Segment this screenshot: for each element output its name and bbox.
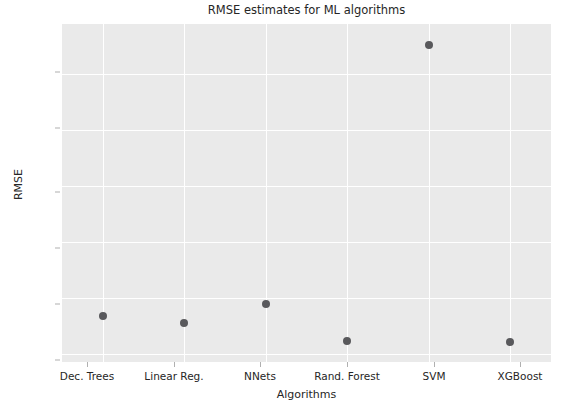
data-point [262, 300, 270, 308]
grid-line-horizontal-5 [62, 74, 551, 75]
x-tick-label-1: Linear Reg. [144, 370, 203, 382]
x-tick-mark-2 [260, 362, 261, 367]
y-tick-mark-3 [55, 192, 60, 193]
data-point [180, 319, 188, 327]
grid-line-vertical-2 [266, 24, 267, 362]
x-tick-mark-1 [174, 362, 175, 367]
x-axis-label: Algorithms [62, 388, 551, 401]
grid-line-horizontal-4 [62, 130, 551, 131]
grid-line-horizontal-1 [62, 298, 551, 299]
chart-title: RMSE estimates for ML algorithms [62, 3, 551, 17]
x-tick-mark-0 [87, 362, 88, 367]
x-tick-label-2: NNets [244, 370, 276, 382]
y-tick-mark-0 [55, 360, 60, 361]
grid-line-vertical-4 [429, 24, 430, 362]
chart-figure: RMSE estimates for ML algorithms 0.02 0.… [0, 0, 561, 420]
plot-area [62, 24, 551, 362]
x-tick-label-3: Rand. Forest [314, 370, 380, 382]
data-point [99, 312, 107, 320]
grid-line-vertical-3 [347, 24, 348, 362]
y-tick-mark-2 [55, 248, 60, 249]
x-tick-label-4: SVM [423, 370, 446, 382]
y-tick-mark-5 [55, 72, 60, 73]
x-tick-mark-5 [520, 362, 521, 367]
x-tick-label-0: Dec. Trees [60, 370, 114, 382]
y-tick-mark-4 [55, 128, 60, 129]
x-tick-mark-3 [347, 362, 348, 367]
x-tick-label-5: XGBoost [498, 370, 543, 382]
grid-line-vertical-5 [510, 24, 511, 362]
data-point [506, 338, 514, 346]
grid-line-horizontal-0 [62, 354, 551, 355]
data-point [343, 337, 351, 345]
grid-line-horizontal-3 [62, 186, 551, 187]
grid-line-horizontal-2 [62, 242, 551, 243]
grid-line-vertical-1 [184, 24, 185, 362]
y-axis-label: RMSE [12, 155, 25, 215]
y-tick-mark-1 [55, 304, 60, 305]
x-tick-mark-4 [434, 362, 435, 367]
data-point [425, 41, 433, 49]
